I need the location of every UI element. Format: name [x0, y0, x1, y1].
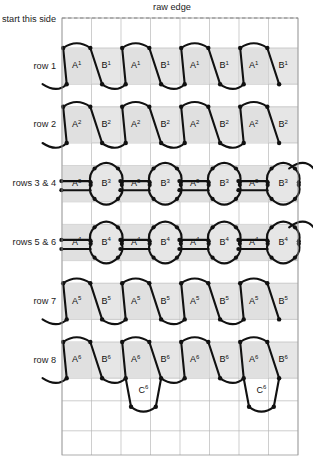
tail-leg-left: [244, 378, 249, 407]
stitch-node: [236, 238, 240, 242]
stitch-node: [234, 256, 238, 260]
stitch-node: [277, 317, 281, 321]
stitch-node: [118, 238, 122, 242]
stitch-node: [59, 247, 63, 251]
stitch-node: [297, 183, 301, 187]
stitch-top-arc: [181, 278, 208, 283]
stitch-node: [297, 242, 301, 246]
stitch-node: [120, 183, 124, 187]
tail-cell-label: C6: [256, 384, 267, 395]
stitch-node: [118, 247, 122, 251]
stitch-top-arc: [63, 43, 90, 48]
stitch-bottom-arc: [102, 319, 126, 324]
row-label-rows-3-4: rows 3 & 4: [13, 178, 56, 188]
stitch-node: [175, 225, 179, 229]
row-label-row-1: row 1: [34, 61, 56, 71]
stitch-node: [59, 188, 63, 192]
stitch-node: [118, 188, 122, 192]
start-this-side-label: start this side: [2, 14, 56, 24]
stitch-node: [177, 247, 181, 251]
stitch-node: [175, 197, 179, 201]
stitch-node: [92, 166, 96, 170]
stitch-node: [269, 256, 273, 260]
raw-edge-label: raw edge: [153, 2, 191, 12]
stitch-top-arc: [240, 43, 267, 48]
stitch-top-arc: [240, 278, 267, 283]
row-label-rows-5-6: rows 5 & 6: [13, 237, 56, 247]
row-label-row-7: row 7: [34, 296, 56, 306]
stitch-node: [277, 141, 281, 145]
tail-leg-right: [156, 378, 161, 407]
stitch-node: [175, 166, 179, 170]
stitch-node: [238, 183, 242, 187]
stitch-node: [269, 166, 273, 170]
stitch-node: [234, 166, 238, 170]
shaded-a-cells: [62, 48, 269, 378]
stitch-bottom-arc: [161, 319, 185, 324]
stitch-node: [116, 166, 120, 170]
tail-leg-right: [274, 378, 279, 407]
stitch-top-arc: [122, 278, 149, 283]
stitch-node: [116, 256, 120, 260]
stitch-node: [293, 256, 297, 260]
stitch-node: [151, 225, 155, 229]
stitch-node: [210, 225, 214, 229]
stitch-node: [179, 242, 183, 246]
stitch-top-arc: [63, 337, 90, 342]
stitch-node: [177, 238, 181, 242]
stitch-node: [210, 256, 214, 260]
stitch-node: [118, 179, 122, 183]
row-label-row-8: row 8: [34, 355, 56, 365]
stitch-node: [234, 225, 238, 229]
stitch-node: [210, 166, 214, 170]
stitch-node: [179, 183, 183, 187]
stitch-node: [210, 197, 214, 201]
tail-cell-label: C6: [138, 384, 149, 395]
tail-leg-left: [126, 378, 131, 407]
stitch-node: [293, 225, 297, 229]
stitch-node: [236, 179, 240, 183]
row-label-row-2: row 2: [34, 119, 56, 129]
stitch-bottom-arc: [161, 143, 185, 148]
stitch-node: [177, 188, 181, 192]
stitch-node: [236, 188, 240, 192]
stitch-bottom-arc: [161, 84, 185, 89]
stitch-bottom-arc: [102, 378, 126, 383]
stitch-bottom-arc: [43, 319, 67, 324]
stitch-node: [92, 197, 96, 201]
stitch-top-arc: [240, 102, 267, 107]
stitch-top-arc: [63, 278, 90, 283]
stitch-bottom-arc: [102, 143, 126, 148]
stitch-bottom-arc: [220, 143, 244, 148]
stitch-top-arc: [181, 43, 208, 48]
stitch-node: [92, 256, 96, 260]
stitch-node: [293, 197, 297, 201]
knitting-chart-svg: C6C6A1B1A1B1A1B1A1B1A2B2A2B2A2B2A2B2A3B3…: [0, 0, 313, 465]
stitch-top-arc: [63, 102, 90, 107]
stitch-node: [293, 166, 297, 170]
stitch-top-arc: [181, 102, 208, 107]
stitch-node: [92, 225, 96, 229]
stitch-node: [59, 238, 63, 242]
stitch-top-arc: [122, 102, 149, 107]
stitch-node: [116, 225, 120, 229]
stitch-node: [151, 197, 155, 201]
stitch-node: [120, 242, 124, 246]
stitch-node: [177, 179, 181, 183]
stitch-top-arc: [181, 337, 208, 342]
stitch-bottom-arc: [43, 143, 67, 148]
stitch-node: [59, 179, 63, 183]
stitch-node: [269, 225, 273, 229]
stitch-node: [234, 197, 238, 201]
stitch-node: [175, 256, 179, 260]
stitch-top-arc: [240, 337, 267, 342]
stitch-bottom-arc: [220, 84, 244, 89]
tail-bottom-arc: [249, 407, 274, 412]
stitch-top-arc: [122, 337, 149, 342]
stitch-bottom-arc: [102, 84, 126, 89]
stitch-bottom-arc: [161, 378, 185, 383]
stitch-bottom-arc: [43, 378, 67, 383]
stitch-node: [236, 247, 240, 251]
stitch-node: [116, 197, 120, 201]
stitch-bottom-arc: [220, 378, 244, 383]
